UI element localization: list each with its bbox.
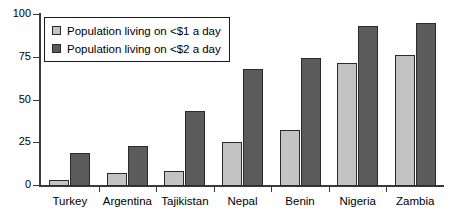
bar-argentina-series-1 (107, 173, 127, 186)
x-axis-label-turkey: Turkey (41, 195, 99, 208)
x-axis-label-tajikistan: Tajikistan (156, 195, 214, 208)
legend-item: Population living on <$1 a day (52, 23, 221, 38)
x-axis-tick (386, 187, 387, 192)
y-axis-tick (33, 142, 39, 143)
x-axis-tick (99, 187, 100, 192)
x-axis-label-zambia: Zambia (386, 195, 444, 208)
bar-benin-series-1 (280, 130, 300, 186)
bar-nigeria-series-2 (358, 26, 378, 186)
bar-tajikistan-series-1 (164, 171, 184, 186)
y-axis-tick (33, 185, 39, 186)
bar-zambia-series-2 (416, 23, 436, 186)
legend-item: Population living on <$2 a day (52, 41, 221, 56)
y-axis-tick-label: 0 (0, 179, 31, 190)
y-axis-tick-label: 50 (0, 94, 31, 105)
x-axis-tick (329, 187, 330, 192)
bar-nigeria-series-1 (337, 63, 357, 186)
legend-label-series-2: Population living on <$2 a day (67, 43, 221, 55)
bar-nepal-series-2 (243, 69, 263, 186)
y-axis-tick-label: 100 (0, 8, 31, 19)
bar-zambia-series-1 (395, 55, 415, 186)
x-axis-tick (156, 187, 157, 192)
x-axis-label-nepal: Nepal (214, 195, 272, 208)
bar-chart: 0255075100 TurkeyArgentinaTajikistanNepa… (0, 0, 449, 221)
x-axis-label-benin: Benin (271, 195, 329, 208)
x-axis-tick (271, 187, 272, 192)
bar-nepal-series-1 (222, 142, 242, 186)
x-axis-label-argentina: Argentina (99, 195, 157, 208)
y-axis-tick (33, 57, 39, 58)
legend-swatch-series-2-icon (52, 44, 61, 53)
bar-turkey-series-1 (49, 180, 69, 186)
bar-turkey-series-2 (70, 153, 90, 186)
bar-argentina-series-2 (128, 146, 148, 186)
legend-swatch-series-1-icon (52, 26, 61, 35)
y-axis-line (39, 13, 41, 187)
legend-label-series-1: Population living on <$1 a day (67, 25, 221, 37)
bar-benin-series-2 (301, 58, 321, 186)
bar-tajikistan-series-2 (185, 111, 205, 186)
chart-legend: Population living on <$1 a day Populatio… (44, 17, 230, 62)
x-axis-label-nigeria: Nigeria (329, 195, 387, 208)
y-axis-tick (33, 14, 39, 15)
x-axis-tick (214, 187, 215, 192)
y-axis-tick-label: 25 (0, 136, 31, 147)
y-axis-tick-label: 75 (0, 51, 31, 62)
y-axis-tick (33, 100, 39, 101)
